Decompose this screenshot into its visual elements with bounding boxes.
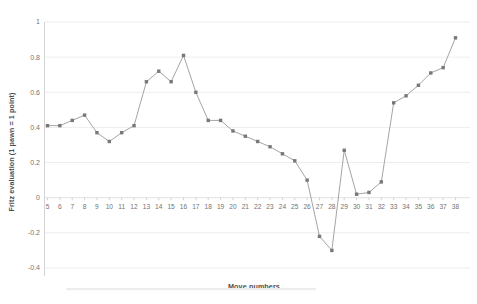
x-tick-label: 21 bbox=[242, 203, 250, 210]
x-tick-label: 23 bbox=[266, 203, 274, 210]
x-tick-labels-group: 5678910111213141516171819202122232425262… bbox=[46, 203, 460, 210]
data-point-marker bbox=[132, 124, 135, 127]
data-point-marker bbox=[441, 66, 444, 69]
x-tick-label: 17 bbox=[192, 203, 200, 210]
x-tick-label: 6 bbox=[58, 203, 62, 210]
y-tick-label: 0.2 bbox=[30, 159, 40, 166]
x-tick-label: 19 bbox=[217, 203, 225, 210]
data-point-marker bbox=[454, 36, 457, 39]
x-tick-label: 36 bbox=[427, 203, 435, 210]
data-point-marker bbox=[330, 249, 333, 252]
x-tick-label: 11 bbox=[118, 203, 125, 210]
data-point-markers-group bbox=[46, 36, 457, 252]
data-point-marker bbox=[219, 119, 222, 122]
data-point-marker bbox=[108, 140, 111, 143]
data-point-marker bbox=[318, 235, 321, 238]
x-tick-label: 30 bbox=[353, 203, 361, 210]
data-point-marker bbox=[231, 129, 234, 132]
data-point-marker bbox=[293, 159, 296, 162]
x-tick-label: 27 bbox=[316, 203, 324, 210]
x-tick-label: 9 bbox=[95, 203, 99, 210]
x-tick-label: 26 bbox=[303, 203, 311, 210]
x-tick-label: 22 bbox=[254, 203, 262, 210]
line-chart-svg: 10.80.60.40.20-0.2-0.4 56789101112131415… bbox=[0, 0, 477, 304]
x-tick-label: 7 bbox=[70, 203, 74, 210]
data-point-marker bbox=[83, 113, 86, 116]
data-point-marker bbox=[58, 124, 61, 127]
data-point-marker bbox=[182, 54, 185, 57]
data-point-marker bbox=[46, 124, 49, 127]
chart-container: Fritz evaluation (1 pawn = 1 point) Move… bbox=[0, 0, 477, 304]
x-tick-label: 12 bbox=[130, 203, 138, 210]
x-tick-label: 32 bbox=[378, 203, 386, 210]
y-tick-label: 0.6 bbox=[30, 89, 40, 96]
data-point-marker bbox=[404, 94, 407, 97]
x-tick-label: 16 bbox=[180, 203, 188, 210]
data-point-marker bbox=[343, 149, 346, 152]
x-tick-label: 25 bbox=[291, 203, 299, 210]
data-series-line bbox=[48, 38, 456, 251]
x-tick-label: 14 bbox=[155, 203, 163, 210]
bottom-artifact bbox=[66, 288, 316, 290]
data-point-marker bbox=[120, 131, 123, 134]
data-point-marker bbox=[207, 119, 210, 122]
data-point-marker bbox=[380, 180, 383, 183]
x-tick-label: 28 bbox=[328, 203, 336, 210]
data-point-marker bbox=[256, 140, 259, 143]
data-point-marker bbox=[169, 80, 172, 83]
data-point-marker bbox=[268, 145, 271, 148]
data-point-marker bbox=[305, 178, 308, 181]
y-tick-label: 1 bbox=[36, 18, 40, 25]
x-tick-label: 15 bbox=[167, 203, 175, 210]
data-point-marker bbox=[145, 80, 148, 83]
x-tick-label: 37 bbox=[439, 203, 447, 210]
data-point-marker bbox=[281, 152, 284, 155]
y-tick-label: 0 bbox=[36, 194, 40, 201]
data-point-marker bbox=[355, 193, 358, 196]
data-point-marker bbox=[417, 84, 420, 87]
data-point-marker bbox=[367, 191, 370, 194]
x-tick-label: 24 bbox=[279, 203, 287, 210]
y-tick-label: -0.2 bbox=[28, 229, 40, 236]
x-tick-label: 5 bbox=[46, 203, 50, 210]
data-point-marker bbox=[429, 71, 432, 74]
x-tick-label: 10 bbox=[106, 203, 114, 210]
data-point-marker bbox=[71, 119, 74, 122]
x-tick-label: 38 bbox=[452, 203, 460, 210]
gridlines-group bbox=[45, 22, 471, 268]
x-tick-label: 35 bbox=[415, 203, 423, 210]
data-point-marker bbox=[157, 70, 160, 73]
data-point-marker bbox=[194, 91, 197, 94]
data-point-marker bbox=[244, 135, 247, 138]
x-tick-label: 8 bbox=[83, 203, 87, 210]
data-point-marker bbox=[392, 101, 395, 104]
x-tick-label: 13 bbox=[143, 203, 151, 210]
x-tick-label: 29 bbox=[341, 203, 349, 210]
x-tick-label: 20 bbox=[229, 203, 237, 210]
data-point-marker bbox=[95, 131, 98, 134]
y-tick-labels-group: 10.80.60.40.20-0.2-0.4 bbox=[28, 18, 40, 271]
y-tick-label: 0.4 bbox=[30, 124, 40, 131]
y-tick-label: 0.8 bbox=[30, 54, 40, 61]
x-tick-label: 33 bbox=[390, 203, 398, 210]
plot-area: 10.80.60.40.20-0.2-0.4 56789101112131415… bbox=[0, 0, 477, 304]
y-tick-label: -0.4 bbox=[28, 264, 40, 271]
x-tick-label: 34 bbox=[402, 203, 410, 210]
x-tick-label: 18 bbox=[205, 203, 213, 210]
x-tick-label: 31 bbox=[365, 203, 373, 210]
